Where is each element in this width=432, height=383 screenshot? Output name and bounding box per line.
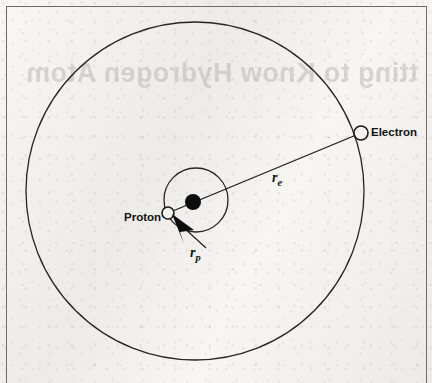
proton-radius-label: rp [190, 245, 201, 263]
proton-particle [162, 207, 174, 219]
rp-arrowhead [172, 214, 194, 244]
proton-label: Proton [124, 211, 161, 223]
hydrogen-atom-diagram [0, 0, 432, 383]
rp-subscript: p [195, 252, 200, 263]
electron-particle [354, 126, 368, 140]
figure-canvas: tting to Know Hydrogen Atom Electron Pro… [0, 0, 432, 383]
electron-label: Electron [371, 126, 417, 138]
electron-radius-label: re [272, 170, 282, 188]
center-of-mass-dot [185, 194, 201, 210]
re-subscript: e [277, 177, 282, 188]
electron-orbit-circle [26, 22, 364, 360]
